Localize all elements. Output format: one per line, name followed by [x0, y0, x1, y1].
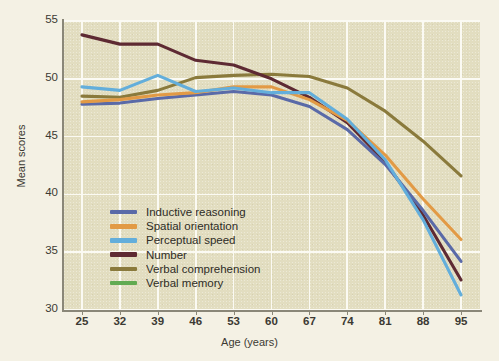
legend-label: Number — [146, 249, 187, 261]
legend-swatch — [110, 252, 137, 257]
legend-label: Inductive reasoning — [146, 206, 246, 218]
legend-label: Verbal memory — [146, 277, 223, 289]
x-axis-title: Age (years) — [0, 336, 499, 348]
legend: Inductive reasoningSpatial orientationPe… — [110, 205, 260, 290]
legend-item: Verbal comprehension — [110, 262, 260, 276]
legend-item: Number — [110, 248, 260, 262]
legend-label: Spatial orientation — [146, 220, 238, 232]
y-axis-title: Mean scores — [15, 111, 27, 201]
legend-swatch — [110, 224, 137, 229]
legend-swatch — [110, 281, 137, 286]
legend-label: Verbal comprehension — [146, 263, 260, 275]
legend-label: Perceptual speed — [146, 234, 236, 246]
figure-caption — [14, 352, 484, 361]
series-lines — [0, 0, 499, 361]
series-line — [82, 74, 461, 176]
legend-item: Verbal memory — [110, 276, 260, 290]
legend-swatch — [110, 267, 137, 272]
legend-item: Inductive reasoning — [110, 205, 260, 219]
figure-longitudinal-mental-abilities: 303540455055 2532394653606774818895 Mean… — [0, 0, 499, 361]
legend-item: Perceptual speed — [110, 233, 260, 247]
legend-swatch — [110, 210, 137, 215]
legend-item: Spatial orientation — [110, 219, 260, 233]
legend-swatch — [110, 238, 137, 243]
